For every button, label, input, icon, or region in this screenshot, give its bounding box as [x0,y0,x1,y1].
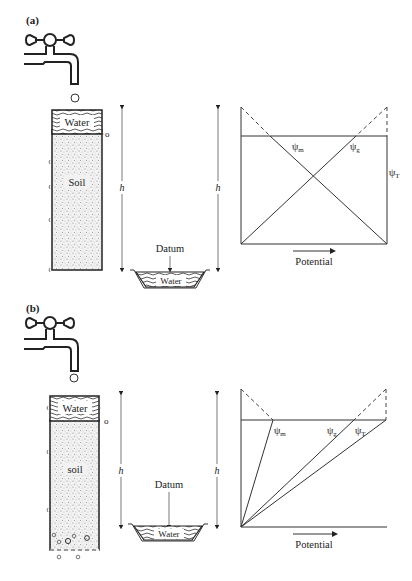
column-water-label: Water [65,117,90,128]
reservoir-water-label: Water [160,276,181,286]
height-label-right: h [216,182,221,193]
x-axis-label: Potential [295,256,332,267]
psi-m-label: ψm [292,141,304,154]
panel-b-label: (b) [26,302,40,315]
panel-a: (a) Water Soil o h [24,14,400,288]
reservoir: Water [130,270,210,288]
reservoir-water-label: Water [158,529,179,539]
faucet-icon [24,317,78,382]
column-soil-label: Soil [69,177,86,188]
datum-label: Datum [156,243,185,254]
height-label-left: h [120,182,125,193]
height-arrow-left: h [117,107,127,270]
height-arrow-left: h [116,393,126,527]
potential-graph-b: ψm ψg ψT Potential [241,389,387,550]
psi-g-label: ψg [327,425,337,438]
reservoir: Water [128,524,208,541]
datum-label: Datum [155,479,184,490]
faucet-icon [24,34,79,102]
soil-water-potential-diagram: (a) Water Soil o h [0,0,412,581]
column-soil-label: soil [67,464,82,475]
psi-g-label: ψg [350,141,360,154]
height-label-right: h [215,465,220,476]
column-water-label: Water [63,403,88,414]
potential-graph-a: ψm ψg ψT Potential [241,107,400,267]
psi-t-label: ψT [389,167,400,180]
x-axis-label: Potential [295,539,332,550]
panel-a-label: (a) [26,14,39,27]
panel-b: (b) Water soil o [24,302,387,559]
psi-t-label: ψT [355,425,366,438]
height-arrow-right: h [213,107,223,270]
psi-m-label: ψm [274,425,286,438]
height-label-left: h [119,465,124,476]
height-arrow-right: h [212,393,222,527]
soil-column: Water Soil o [49,110,110,272]
zero-mark: o [104,416,109,426]
zero-mark: o [105,129,110,139]
soil-column: Water soil o [47,396,109,559]
